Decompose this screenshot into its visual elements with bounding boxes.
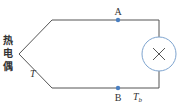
title-char-2: 电 — [3, 47, 13, 59]
bottom-wire — [19, 54, 159, 88]
point-a-label: A — [114, 6, 122, 17]
point-b-label: B — [115, 92, 122, 103]
title-char-1: 热 — [3, 34, 13, 46]
point-b-dot — [116, 86, 120, 90]
thermocouple-circuit-diagram: A B T Tb 热 电 偶 — [0, 0, 182, 111]
point-a-dot — [116, 18, 120, 22]
title-char-3: 偶 — [2, 60, 13, 72]
reference-temp-label: Tb — [133, 91, 143, 104]
meter-icon — [142, 37, 176, 71]
top-wire — [19, 20, 159, 54]
junction-temp-label: T — [30, 68, 37, 79]
